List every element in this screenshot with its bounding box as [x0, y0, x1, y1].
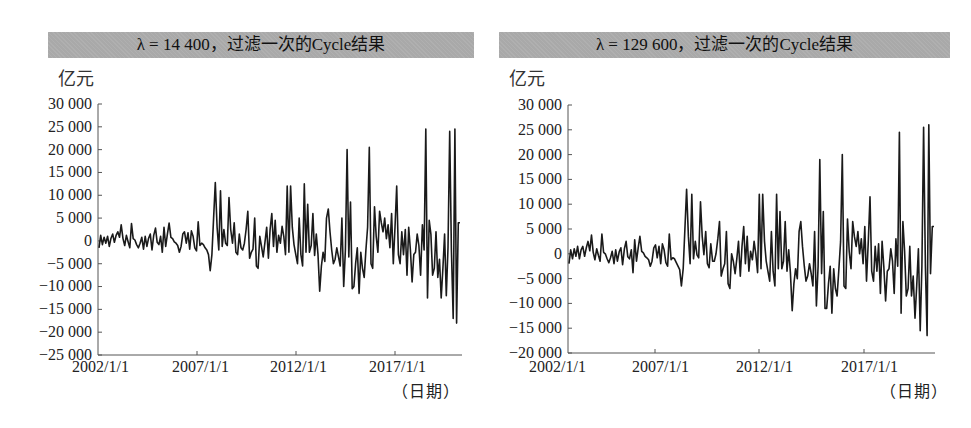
chart-plot-area [0, 0, 971, 428]
axes-left [98, 104, 462, 355]
axes-right [568, 105, 935, 353]
cycle-line-left [99, 129, 460, 323]
cycle-line-right [569, 125, 934, 336]
